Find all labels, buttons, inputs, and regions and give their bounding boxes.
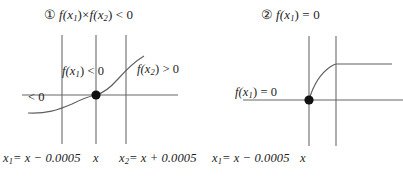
left-fx1-x: x: [70, 64, 76, 78]
left-title-close-times: )×: [78, 7, 90, 22]
right-bottom-label-x1: x1= x − 0.0005: [212, 152, 289, 166]
left-bottom-label-x2: x2= x + 0.0005: [119, 152, 196, 166]
right-label-fx1: f(x1) = 0: [235, 86, 277, 100]
right-x1-rest: = x − 0.0005: [222, 151, 289, 165]
figure-root: ①f(x1)×f(x2) < 0 f(x1) < 0 f(x2) > 0 < 0…: [0, 0, 403, 179]
left-title-close-rel: ) < 0: [108, 7, 133, 22]
left-panel-title: ①f(x1)×f(x2) < 0: [44, 8, 133, 23]
left-label-fx1: f(x1) < 0: [62, 65, 104, 79]
left-fx2-f-open: f(: [137, 62, 145, 76]
left-x1-var: x: [3, 151, 9, 165]
left-title-f-open2: f(: [89, 7, 97, 22]
right-panel-title: ②f(x1) = 0: [261, 8, 320, 23]
left-panel-graphics: [22, 35, 178, 144]
right-fx1-x: x: [243, 85, 249, 99]
right-function-curve: [309, 64, 336, 100]
left-panel-marker: ①: [44, 8, 59, 22]
right-root-dot: [304, 95, 313, 104]
left-fx2-x: x: [145, 62, 151, 76]
right-bottom-label-x: x: [300, 152, 306, 165]
right-fx1-f-open: f(: [235, 85, 243, 99]
left-fx2-close: ) > 0: [155, 62, 179, 76]
right-x1-var: x: [212, 151, 218, 165]
left-fx1-close: ) < 0: [80, 64, 104, 78]
left-x2-var: x: [119, 151, 125, 165]
right-fx1-close: ) = 0: [253, 85, 277, 99]
left-label-fx2: f(x2) > 0: [137, 63, 179, 77]
right-title-close-rel: ) = 0: [295, 7, 320, 22]
left-bottom-label-x: x: [93, 152, 99, 165]
right-panel-marker: ②: [261, 8, 276, 22]
left-title-x2: x: [98, 7, 104, 22]
left-bottom-label-x1: x1= x − 0.0005: [3, 152, 80, 166]
left-label-below-axis: < 0: [28, 91, 45, 104]
left-root-dot: [91, 90, 100, 99]
left-x1-rest: = x − 0.0005: [13, 151, 80, 165]
left-x2-rest: = x + 0.0005: [129, 151, 196, 165]
left-fx1-f-open: f(: [62, 64, 70, 78]
